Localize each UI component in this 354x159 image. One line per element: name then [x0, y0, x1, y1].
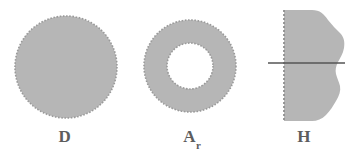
panel-label-annulus-text: A [183, 127, 196, 146]
halfplane-blob-fill [284, 10, 344, 121]
halfplane-shape [254, 0, 354, 130]
panel-label-annulus-subscript: r [196, 139, 201, 151]
panel-label-halfplane-text: H [297, 127, 311, 146]
panel-halfplane: H [254, 0, 354, 159]
panel-annulus: Ar [130, 0, 254, 159]
panel-label-disk: D [0, 126, 130, 148]
panel-label-halfplane: H [254, 126, 354, 148]
annulus-shape [130, 0, 254, 130]
annulus-inner-circle [167, 43, 213, 89]
panel-disk: D [0, 0, 130, 159]
figure-container: D Ar H [0, 0, 354, 159]
panel-label-annulus: Ar [130, 126, 254, 153]
panel-label-disk-text: D [59, 127, 72, 146]
disk-circle [15, 16, 117, 118]
disk-shape [0, 0, 130, 130]
